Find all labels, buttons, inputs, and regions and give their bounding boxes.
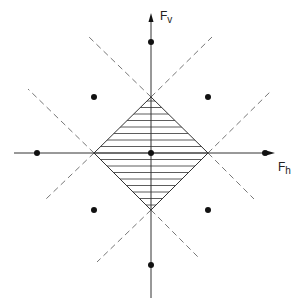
dashed-boundary-line [151, 210, 200, 259]
lattice-point [34, 150, 40, 156]
lattice-point [148, 262, 154, 268]
fh-sub: h [285, 165, 291, 176]
fv-sub: v [167, 14, 172, 25]
lattice-point [91, 94, 97, 100]
dashed-boundary-line [46, 153, 94, 199]
lattice-point [148, 39, 154, 45]
dashed-boundary-line [89, 37, 151, 97]
force-diagram [0, 0, 301, 298]
lattice-point [262, 150, 268, 156]
lattice-point [91, 207, 97, 213]
lattice-point [205, 207, 211, 213]
dashed-boundary-line [28, 89, 94, 153]
diagram-canvas: Fv Fh [0, 0, 301, 298]
dashed-boundary-line [151, 37, 212, 97]
dashed-boundary-line [97, 210, 151, 262]
lattice-point [148, 150, 154, 156]
vertical-axis-arrow-icon [149, 13, 154, 22]
lattice-point [205, 94, 211, 100]
dashed-boundary-line [208, 90, 272, 153]
dashed-boundary-line [208, 153, 254, 199]
horizontal-axis-label: Fh [278, 160, 291, 176]
vertical-axis-label: Fv [160, 9, 172, 25]
